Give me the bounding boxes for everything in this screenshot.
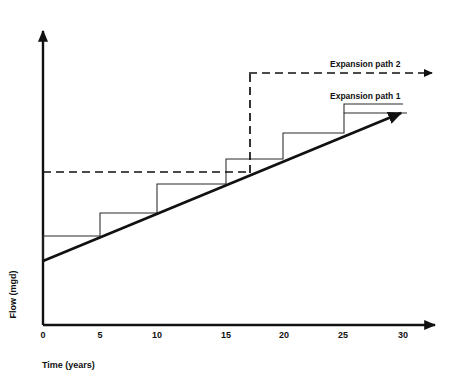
x-tick-label-25: 25 [330, 330, 356, 340]
annotation-expansion-path-1: Expansion path 1 [330, 91, 400, 101]
expansion-path-1-leader [344, 104, 403, 113]
x-tick-label-10: 10 [144, 330, 170, 340]
x-tick-label-5: 5 [87, 330, 113, 340]
annotation-expansion-path-2: Expansion path 2 [330, 59, 400, 69]
x-axis-title: Time (years) [42, 360, 95, 371]
x-tick-label-15: 15 [213, 330, 239, 340]
x-tick-label-30: 30 [390, 330, 416, 340]
x-tick-label-20: 20 [271, 330, 297, 340]
y-axis-title: Flow (mgd) [8, 264, 19, 326]
x-tick-label-0: 0 [30, 330, 56, 340]
expansion-path-chart: 0 5 10 15 20 25 30 Flow (mgd) Time (year… [0, 0, 459, 387]
projected-demand-line [43, 113, 401, 261]
